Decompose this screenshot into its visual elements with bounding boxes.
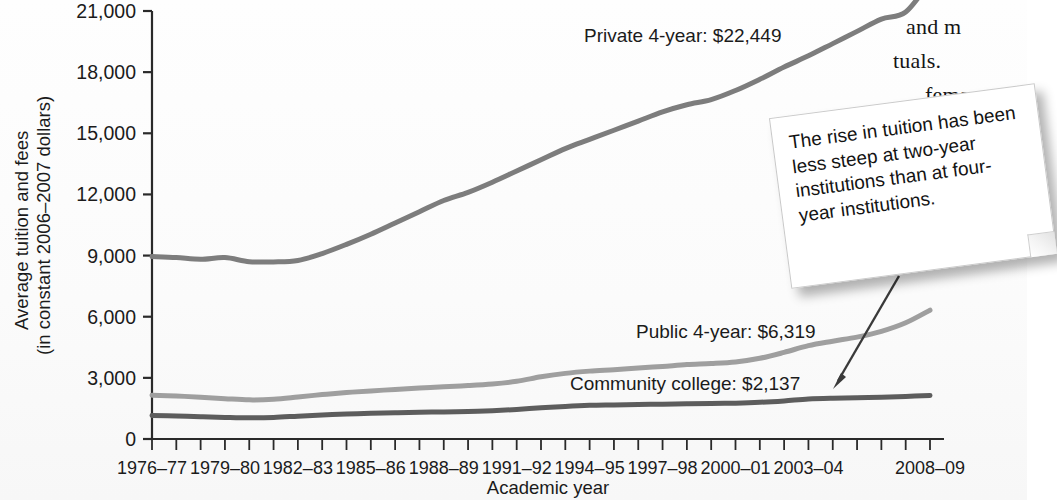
x-tick-label: 1988–89: [409, 458, 479, 478]
callout-fold-corner: [1027, 231, 1057, 257]
x-tick-label: 1979–80: [190, 458, 260, 478]
y-tick-label: 0: [125, 428, 136, 450]
x-tick-label: 1997–98: [628, 458, 698, 478]
y-tick-label: 6,000: [87, 306, 136, 328]
x-tick-label: 1982–83: [263, 458, 333, 478]
page-text-fragment-2: tuals.: [893, 48, 941, 74]
x-axis-title: Academic year: [487, 477, 609, 498]
x-tick-label: 1991–92: [482, 458, 552, 478]
x-axis-tick-labels: 1976–771979–801982–831985–861988–891991–…: [117, 458, 965, 478]
y-tick-label: 15,000: [76, 122, 136, 144]
y-axis-title-line2: (in constant 2006–2007 dollars): [33, 96, 54, 355]
x-tick-label: 1976–77: [117, 458, 187, 478]
series-label-community-college: Community college: $2,137: [570, 373, 800, 394]
x-tick-label: 2003–04: [773, 458, 843, 478]
series-label-private-4-year: Private 4-year: $22,449: [584, 25, 782, 46]
y-tick-label: 21,000: [76, 0, 136, 22]
annotation-callout: The rise in tuition has been less steep …: [769, 83, 1057, 289]
y-axis-title-line1: Average tuition and fees: [11, 131, 32, 330]
page-text-fragment-1: and m: [906, 14, 961, 40]
x-tick-label: 1985–86: [336, 458, 406, 478]
x-axis-ticks: [152, 439, 930, 450]
callout-arrow: [828, 276, 899, 389]
series-label-public-4-year: Public 4-year: $6,319: [636, 321, 816, 342]
y-axis-ticks: [143, 11, 152, 439]
y-tick-label: 18,000: [76, 61, 136, 83]
x-tick-label: 2000–01: [700, 458, 770, 478]
y-tick-label: 12,000: [76, 183, 136, 205]
annotation-callout-text: The rise in tuition has been less steep …: [788, 100, 1033, 228]
x-tick-label: 2008–09: [895, 458, 965, 478]
x-tick-label: 1994–95: [555, 458, 625, 478]
y-tick-label: 3,000: [87, 367, 136, 389]
y-axis-tick-labels: 03,0006,0009,00012,00015,00018,00021,000: [76, 0, 136, 450]
y-tick-label: 9,000: [87, 245, 136, 267]
